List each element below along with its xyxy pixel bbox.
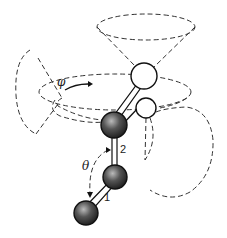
right-cone (145, 107, 213, 197)
phi-label: φ (57, 75, 66, 89)
phi-angle-arrow (65, 81, 93, 90)
molecule-diagram: φ θ 2 1 (0, 0, 227, 238)
theta-label: θ (82, 159, 90, 173)
left-cone (16, 50, 102, 134)
middle-dark-atom (103, 165, 127, 189)
central-dark-atom (101, 112, 127, 138)
side-white-atom (136, 98, 156, 118)
bond-1-label: 1 (104, 191, 110, 203)
bonds (86, 80, 145, 210)
top-white-atom (131, 63, 157, 89)
bottom-dark-atom (74, 201, 98, 225)
bond-2-label: 2 (120, 143, 126, 155)
top-cone (97, 14, 195, 67)
